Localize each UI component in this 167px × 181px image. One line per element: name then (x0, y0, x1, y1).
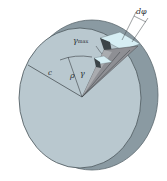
shaft-diagram (0, 0, 167, 181)
dphi-dim-line (134, 16, 146, 22)
label-gamma-max: γmax (73, 37, 88, 45)
label-gamma: γ (80, 70, 85, 78)
label-dphi: dφ (136, 8, 147, 16)
gamma-max-subscript: max (78, 38, 89, 44)
label-radius-c: c (48, 70, 52, 77)
label-rho: ρ (70, 72, 75, 80)
